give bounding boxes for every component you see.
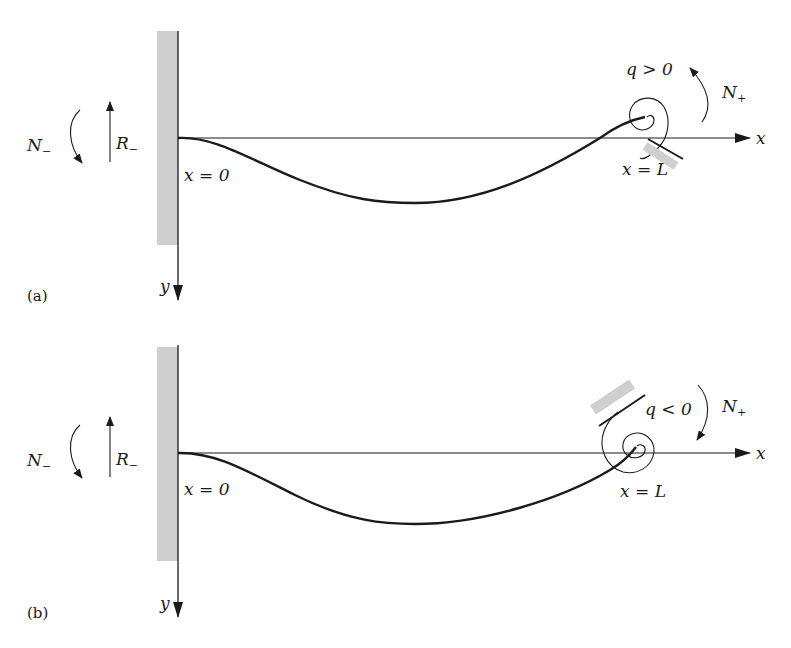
spring-label: q < 0 bbox=[645, 399, 692, 419]
spring-label: q > 0 bbox=[626, 59, 673, 79]
origin-label: x = 0 bbox=[184, 479, 230, 499]
fixed-wall bbox=[157, 31, 178, 245]
moment-arrow-right-icon bbox=[690, 68, 708, 122]
torsion-spring-icon bbox=[602, 412, 654, 473]
panel-a: N− R− x = 0 x = L q > 0 N+ x y (a) bbox=[26, 31, 766, 305]
x-axis-label: x bbox=[756, 128, 766, 148]
y-axis-label: y bbox=[159, 276, 170, 296]
moment-arrow-left-icon bbox=[70, 425, 82, 478]
right-moment-label: N+ bbox=[721, 82, 746, 105]
deflected-beam bbox=[178, 117, 645, 203]
left-moment-label: N− bbox=[26, 450, 51, 473]
moment-arrow-right-icon bbox=[697, 385, 708, 440]
beam-figure: N− R− x = 0 x = L q > 0 N+ x y (a) N− R−… bbox=[0, 0, 791, 648]
reaction-label: R− bbox=[115, 133, 138, 156]
moment-arrow-left-icon bbox=[70, 110, 82, 163]
deflected-beam bbox=[178, 447, 636, 524]
panel-label-b: (b) bbox=[27, 604, 48, 622]
reaction-label: R− bbox=[115, 449, 138, 472]
end-plate-shade bbox=[593, 384, 632, 410]
right-moment-label: N+ bbox=[721, 396, 746, 419]
panel-label-a: (a) bbox=[27, 287, 48, 305]
origin-label: x = 0 bbox=[184, 165, 230, 185]
x-axis-label: x bbox=[756, 443, 766, 463]
panel-b: N− R− x = 0 x = L q < 0 N+ x y (b) bbox=[26, 345, 766, 622]
left-moment-label: N− bbox=[26, 135, 51, 158]
fixed-wall bbox=[157, 347, 178, 561]
end-label: x = L bbox=[622, 159, 668, 179]
end-label: x = L bbox=[620, 481, 666, 501]
y-axis-label: y bbox=[159, 593, 170, 613]
